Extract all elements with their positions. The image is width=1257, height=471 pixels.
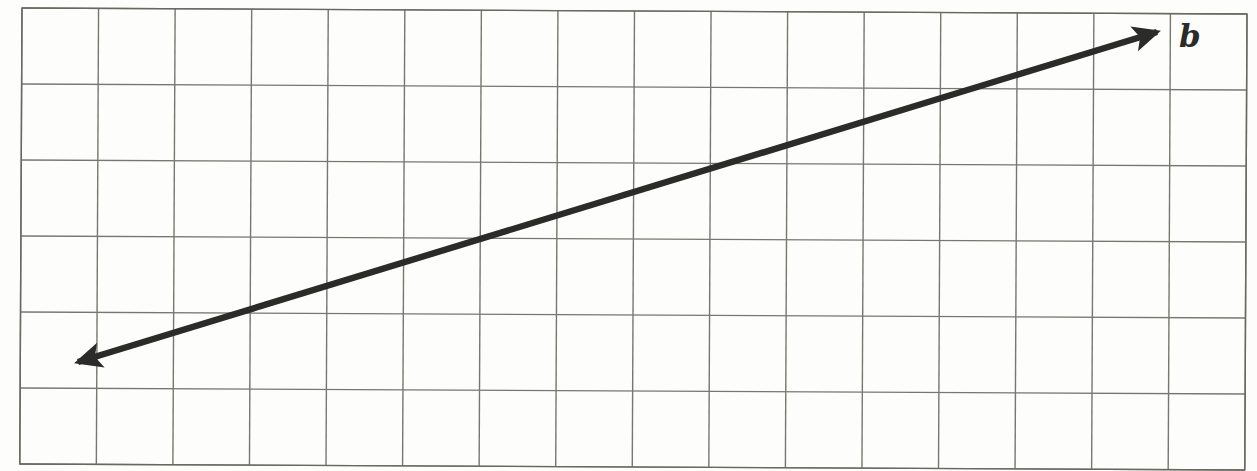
figure-canvas: b [0,0,1257,471]
grid-lines [20,8,1247,470]
line-b-label: b [1179,18,1201,54]
graph-paper-figure: b [0,0,1257,471]
line-b [78,32,1157,362]
